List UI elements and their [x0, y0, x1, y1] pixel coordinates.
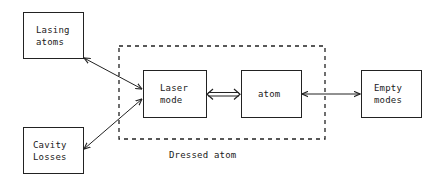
dressed-atom-label: Dressed atom [169, 150, 236, 160]
arrow-cavity-losses-laser-mode [84, 99, 142, 149]
double-arrow-laser-mode-atom [207, 89, 240, 100]
node-laser-mode: Laser mode [143, 70, 207, 118]
node-label-line: Losses [33, 151, 83, 163]
node-label-line: atoms [36, 36, 83, 48]
node-label-line: Empty [374, 82, 421, 94]
node-atom: atom [241, 70, 302, 118]
arrow-lasing-atoms-laser-mode [84, 58, 142, 89]
node-lasing-atoms: Lasing atoms [23, 12, 84, 59]
node-label-line: Lasing [36, 24, 83, 36]
node-empty-modes: Empty modes [361, 70, 422, 118]
node-label-line: Cavity [33, 139, 83, 151]
node-label-line: Laser [160, 82, 206, 94]
node-label-line: modes [374, 94, 421, 106]
node-label-line: mode [160, 94, 206, 106]
node-cavity-losses: Cavity Losses [23, 127, 84, 174]
node-label-line: atom [258, 88, 301, 100]
